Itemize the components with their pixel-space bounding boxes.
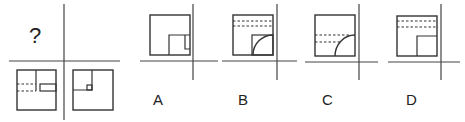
option-c-figure[interactable] <box>305 4 378 80</box>
option-d-figure[interactable] <box>388 4 460 80</box>
option-c-label[interactable]: C <box>322 92 333 107</box>
question-panel-bottom-left <box>17 70 56 110</box>
option-b-figure[interactable] <box>222 4 297 80</box>
option-a-label[interactable]: A <box>153 92 163 107</box>
figure-canvas <box>0 0 465 122</box>
question-mark: ? <box>29 25 41 47</box>
question-grid <box>9 4 120 120</box>
option-a-figure[interactable] <box>140 4 218 80</box>
option-b-label[interactable]: B <box>238 92 248 107</box>
option-d-label[interactable]: D <box>406 92 417 107</box>
question-panel-bottom-right <box>73 70 113 110</box>
